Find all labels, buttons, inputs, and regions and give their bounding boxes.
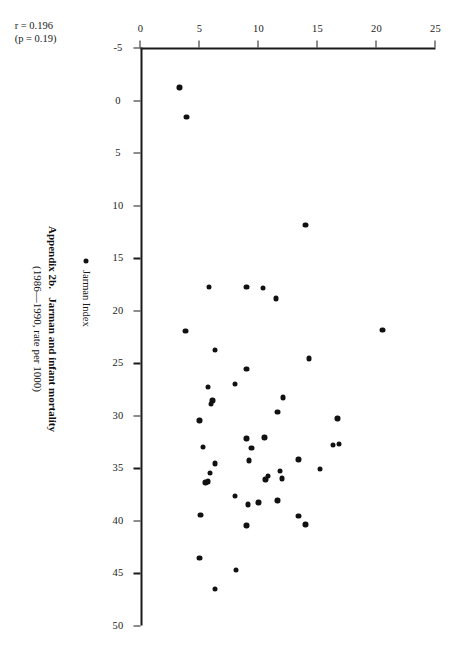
data-point <box>244 435 249 440</box>
data-point <box>232 381 237 386</box>
data-point <box>262 476 267 481</box>
x-tick-label: 35 <box>112 462 123 473</box>
caption-label: Appendix 2b. <box>46 226 58 289</box>
data-point <box>202 479 207 484</box>
data-point <box>244 284 249 289</box>
y-tick-label: 25 <box>424 23 446 34</box>
x-tick-label: 0 <box>115 94 120 105</box>
data-point <box>244 522 249 527</box>
data-point <box>182 328 187 333</box>
data-point <box>334 415 339 420</box>
caption-subtitle: (1986—1990, rate per 1000) <box>29 0 44 657</box>
x-tick <box>133 362 140 363</box>
data-point <box>212 347 217 352</box>
x-tick <box>133 152 140 153</box>
y-tick-label: 0 <box>129 23 151 34</box>
x-tick <box>133 572 140 573</box>
data-point <box>232 493 237 498</box>
x-tick-label: 15 <box>112 252 123 263</box>
data-point <box>274 409 279 414</box>
legend-label: Jarman Index <box>80 269 91 326</box>
data-point <box>233 567 238 572</box>
x-tick-label: 25 <box>112 357 123 368</box>
data-point <box>208 401 213 406</box>
x-tick-label: 5 <box>115 147 120 158</box>
y-tick-label: 5 <box>188 23 210 34</box>
y-tick-label: 20 <box>365 23 387 34</box>
x-tick-label: 10 <box>112 199 123 210</box>
x-tick-label: 50 <box>112 620 123 631</box>
y-axis-line <box>140 47 435 49</box>
data-point <box>303 521 308 526</box>
x-tick-label: 20 <box>112 304 123 315</box>
data-point <box>207 470 212 475</box>
x-tick-label: 40 <box>112 514 123 525</box>
x-tick-label: 45 <box>112 567 123 578</box>
x-tick <box>133 625 140 626</box>
x-tick <box>133 520 140 521</box>
data-point <box>336 441 341 446</box>
x-tick <box>133 310 140 311</box>
data-point <box>317 466 322 471</box>
scatter-figure: -5051015202530354045500510152025 r = 0.1… <box>0 0 463 657</box>
legend-marker-icon <box>83 258 88 263</box>
y-tick <box>434 40 435 47</box>
data-point <box>196 555 201 560</box>
data-point <box>248 445 253 450</box>
x-tick <box>133 467 140 468</box>
data-point <box>255 499 260 504</box>
data-point <box>206 284 211 289</box>
data-point <box>176 84 181 89</box>
y-tick <box>257 40 258 47</box>
y-tick <box>139 40 140 47</box>
data-point <box>379 327 384 332</box>
x-tick <box>133 205 140 206</box>
data-point <box>212 460 217 465</box>
caption-title: Jarman and infant mortality <box>46 297 58 432</box>
x-tick <box>133 100 140 101</box>
data-point <box>330 442 335 447</box>
plot-area: -5051015202530354045500510152025 <box>140 47 435 625</box>
y-tick <box>316 40 317 47</box>
y-tick-label: 15 <box>306 23 328 34</box>
data-point <box>212 586 217 591</box>
data-point <box>260 285 265 290</box>
data-point <box>279 475 284 480</box>
data-point <box>295 456 300 461</box>
data-point <box>197 512 202 517</box>
rotated-figure-canvas: -5051015202530354045500510152025 r = 0.1… <box>0 0 463 657</box>
data-point <box>245 501 250 506</box>
x-tick <box>133 415 140 416</box>
data-point <box>280 394 285 399</box>
data-point <box>200 444 205 449</box>
data-point <box>205 384 210 389</box>
data-point <box>183 114 188 119</box>
figure-page: -5051015202530354045500510152025 r = 0.1… <box>0 0 463 657</box>
data-point <box>303 222 308 227</box>
data-point <box>277 468 282 473</box>
data-point <box>273 295 278 300</box>
data-point <box>261 434 266 439</box>
x-axis-line <box>140 47 142 625</box>
data-point <box>196 417 201 422</box>
x-tick-label: -5 <box>113 42 122 53</box>
x-tick-label: 30 <box>112 409 123 420</box>
figure-caption: Appendix 2b. Jarman and infant mortality… <box>29 0 59 657</box>
data-point <box>246 457 251 462</box>
x-tick <box>133 257 140 258</box>
y-tick-label: 10 <box>247 23 269 34</box>
y-tick <box>198 40 199 47</box>
data-point <box>244 366 249 371</box>
data-point <box>306 355 311 360</box>
legend: Jarman Index <box>80 258 91 326</box>
y-tick <box>375 40 376 47</box>
data-point <box>295 513 300 518</box>
data-point <box>274 497 279 502</box>
